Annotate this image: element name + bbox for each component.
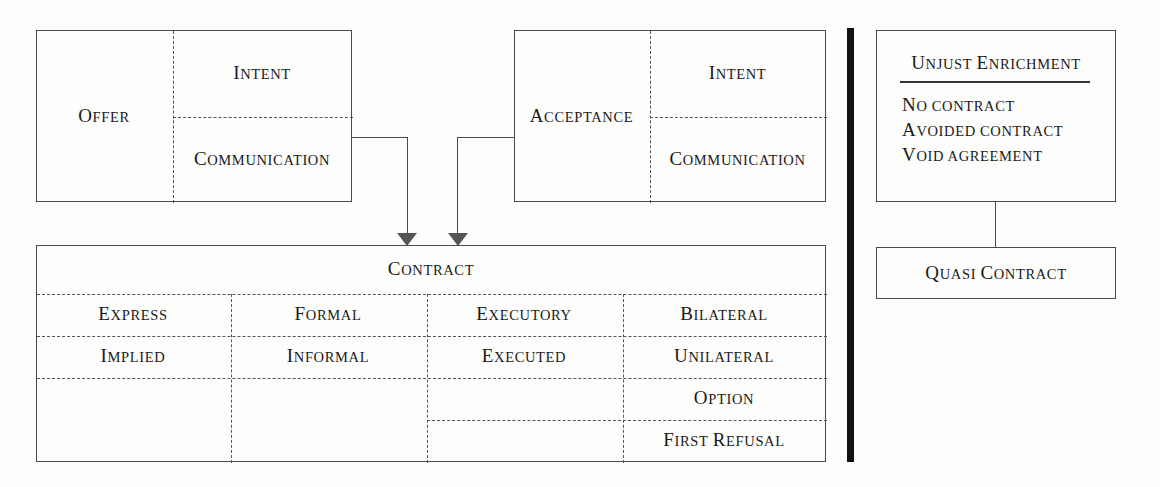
acceptance-main-label-cell: ACCEPTANCE — [514, 30, 649, 202]
table-cell-executory: EXECUTORY — [426, 293, 622, 335]
table-cell-unilateral: UNILATERAL — [622, 335, 826, 377]
acceptance-communication-cell: COMMUNICATION — [649, 116, 826, 202]
unjust-enrichment-list: NO CONTRACT AVOIDED CONTRACT VOID AGREEM… — [902, 92, 1063, 167]
table-cell-first-refusal: FIRST REFUSAL — [622, 419, 826, 461]
offer-intent-label: INTENT — [233, 62, 291, 84]
unjust-enrichment-title-wrap: UNJUST ENRICHMENT — [876, 52, 1116, 74]
table-cell-informal: INFORMAL — [230, 335, 426, 377]
acceptance-main-label: ACCEPTANCE — [530, 105, 634, 127]
acceptance-communication-label: COMMUNICATION — [669, 148, 805, 170]
unjust-enrichment-item-no-contract: NO CONTRACT — [902, 92, 1063, 117]
contract-header-label: CONTRACT — [388, 258, 474, 280]
offer-connector-horizontal — [351, 137, 408, 138]
acceptance-connector-horizontal — [457, 137, 515, 138]
table-cell-bilateral: BILATERAL — [622, 293, 826, 335]
acceptance-intent-label: INTENT — [709, 62, 767, 84]
quasi-contract-label-cell: QUASI CONTRACT — [876, 247, 1116, 299]
acceptance-intent-cell: INTENT — [649, 30, 826, 116]
offer-connector-vertical — [407, 137, 408, 237]
section-divider-bar — [847, 28, 854, 462]
contract-header-cell: CONTRACT — [36, 245, 826, 293]
acceptance-connector-vertical — [457, 137, 458, 237]
quasi-contract-connector — [995, 202, 996, 247]
unjust-enrichment-title-underline — [900, 81, 1090, 83]
offer-intent-cell: INTENT — [172, 30, 352, 116]
unjust-enrichment-item-avoided-contract: AVOIDED CONTRACT — [902, 117, 1063, 142]
quasi-contract-label: QUASI CONTRACT — [925, 262, 1066, 284]
offer-communication-cell: COMMUNICATION — [172, 116, 352, 202]
offer-communication-label: COMMUNICATION — [194, 148, 330, 170]
offer-main-label-cell: OFFER — [36, 30, 172, 202]
table-cell-executed: EXECUTED — [426, 335, 622, 377]
table-cell-formal: FORMAL — [230, 293, 426, 335]
unjust-enrichment-title: UNJUST ENRICHMENT — [911, 52, 1081, 74]
offer-main-label: OFFER — [78, 105, 130, 127]
table-cell-option: OPTION — [622, 377, 826, 419]
table-cell-express: EXPRESS — [36, 293, 230, 335]
table-cell-implied: IMPLIED — [36, 335, 230, 377]
unjust-enrichment-item-void-agreement: VOID AGREEMENT — [902, 142, 1063, 167]
